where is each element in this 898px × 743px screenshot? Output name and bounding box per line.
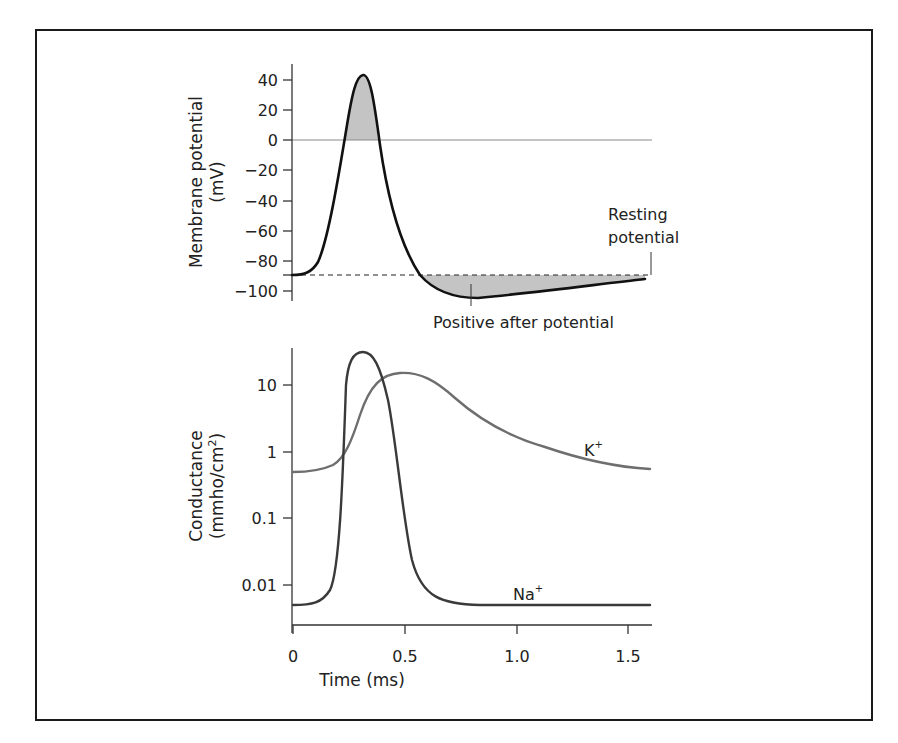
ytick-0.1: 0.1 [252,509,277,528]
bottom-x-ticks [293,625,628,634]
ytick-0: 0 [268,131,278,150]
bottom-y-ticks [283,385,292,585]
xtick-0.5: 0.5 [392,647,417,666]
ytick-20: 20 [258,101,278,120]
top-y-axis-title: Membrane potential (mV) [186,96,227,268]
ytick-neg20: −20 [244,161,278,180]
ytick-10: 10 [257,376,277,395]
ytick-0.01: 0.01 [241,576,277,595]
top-y-ticks [283,80,292,291]
svg-text:Conductance: Conductance [186,430,206,542]
xtick-1.0: 1.0 [504,647,529,666]
ytick-neg100: −100 [234,282,278,301]
svg-text:potential: potential [608,228,679,247]
bottom-y-tick-labels: 10 1 0.1 0.01 [241,376,277,595]
ytick-neg60: −60 [244,222,278,241]
ytick-neg40: −40 [244,192,278,211]
membrane-potential-chart: 40 20 0 −20 −40 −60 −80 −100 Membrane po… [186,64,679,332]
ytick-neg80: −80 [244,252,278,271]
svg-text:Positive after potential: Positive after potential [433,313,614,332]
na-conductance-curve [293,352,650,605]
membrane-potential-curve [292,75,645,298]
svg-text:(mmho/cm2): (mmho/cm2) [206,433,227,539]
conductance-chart: 10 1 0.1 0.01 0 0.5 1.0 1.5 Time (ms) Co… [186,348,652,690]
xtick-0: 0 [288,647,298,666]
bottom-x-tick-labels: 0 0.5 1.0 1.5 [288,647,641,666]
na-label: Na+ [513,583,543,604]
svg-text:Membrane potential: Membrane potential [186,96,206,268]
xtick-1.5: 1.5 [615,647,640,666]
resting-potential-annotation: Resting potential [608,205,679,275]
ytick-1: 1 [267,443,277,462]
k-label: K+ [584,439,603,460]
bottom-y-axis-title: Conductance (mmho/cm2) [186,430,227,542]
x-axis-title: Time (ms) [318,670,405,690]
svg-text:Resting: Resting [608,205,668,224]
svg-text:(mV): (mV) [207,161,227,202]
ytick-40: 40 [258,71,278,90]
figure-canvas: 40 20 0 −20 −40 −60 −80 −100 Membrane po… [0,0,898,743]
top-y-tick-labels: 40 20 0 −20 −40 −60 −80 −100 [234,71,278,301]
